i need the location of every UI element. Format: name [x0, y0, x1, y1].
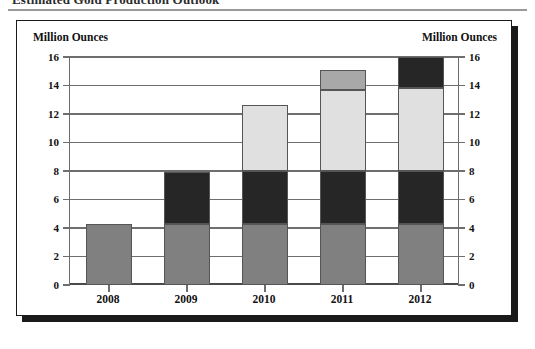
- y-axis-caption-right: Million Ounces: [422, 31, 497, 43]
- y-tick-label-left: 16: [48, 52, 59, 63]
- bar-segment-2011-4[interactable]: [320, 70, 366, 90]
- y-axis-caption-left: Million Ounces: [33, 31, 108, 43]
- bar-2012[interactable]: [398, 57, 444, 285]
- x-axis-label-2009: 2009: [146, 293, 226, 305]
- y-tick-label-right: 6: [469, 194, 475, 205]
- x-tick-2012: [420, 285, 421, 292]
- y-tick-left: [63, 113, 70, 114]
- bar-segment-2011-3[interactable]: [320, 90, 366, 171]
- x-axis-label-2012: 2012: [380, 293, 460, 305]
- y-tick-label-right: 2: [469, 251, 475, 262]
- y-tick-right: [458, 227, 465, 228]
- page-title: Estimated Gold Production Outlook: [12, 0, 220, 8]
- x-axis-label-2011: 2011: [302, 293, 382, 305]
- bar-segment-2010-3[interactable]: [242, 105, 288, 171]
- bar-segment-2012-5[interactable]: [398, 57, 444, 88]
- y-tick-label-left: 0: [54, 280, 60, 291]
- x-axis-label-2008: 2008: [68, 293, 148, 305]
- y-tick-label-left: 10: [48, 137, 59, 148]
- y-tick-right: [458, 142, 465, 143]
- bar-2011[interactable]: [320, 57, 366, 285]
- y-tick-label-right: 0: [469, 280, 475, 291]
- bar-segment-2012-2[interactable]: [398, 171, 444, 224]
- y-tick-label-left: 14: [48, 80, 59, 91]
- x-tick-2011: [342, 285, 343, 292]
- y-tick-label-left: 6: [54, 194, 60, 205]
- bar-2010[interactable]: [242, 57, 288, 285]
- x-tick-2008: [108, 285, 109, 292]
- x-tick-2009: [186, 285, 187, 292]
- y-tick-left: [63, 199, 70, 200]
- bar-segment-2012-3[interactable]: [398, 88, 444, 171]
- y-tick-right: [458, 284, 465, 285]
- bar-2009[interactable]: [164, 57, 210, 285]
- y-tick-left: [63, 85, 70, 86]
- y-tick-label-left: 12: [48, 109, 59, 120]
- y-tick-right: [458, 56, 465, 57]
- y-tick-label-left: 4: [54, 223, 60, 234]
- y-tick-left: [63, 284, 70, 285]
- x-tick-2010: [264, 285, 265, 292]
- y-tick-label-right: 10: [469, 137, 480, 148]
- y-tick-label-right: 16: [469, 52, 480, 63]
- bar-segment-2010-1[interactable]: [242, 224, 288, 285]
- plot-area: 00224466881010121214141616: [69, 57, 459, 285]
- title-divider: [8, 9, 527, 11]
- y-tick-label-left: 8: [54, 166, 60, 177]
- y-tick-label-right: 4: [469, 223, 475, 234]
- bar-segment-2009-1[interactable]: [164, 224, 210, 285]
- bar-segment-2010-2[interactable]: [242, 171, 288, 224]
- y-tick-left: [63, 227, 70, 228]
- bar-segment-2008-1[interactable]: [86, 224, 132, 285]
- y-tick-left: [63, 142, 70, 143]
- y-tick-label-right: 8: [469, 166, 475, 177]
- y-tick-right: [458, 256, 465, 257]
- x-axis-label-2010: 2010: [224, 293, 304, 305]
- y-tick-left: [63, 256, 70, 257]
- y-tick-right: [458, 170, 465, 171]
- bar-segment-2011-1[interactable]: [320, 224, 366, 285]
- y-tick-right: [458, 199, 465, 200]
- bar-segment-2011-2[interactable]: [320, 171, 366, 224]
- y-tick-label-right: 14: [469, 80, 480, 91]
- y-tick-right: [458, 113, 465, 114]
- y-tick-label-right: 12: [469, 109, 480, 120]
- y-tick-right: [458, 85, 465, 86]
- y-tick-label-left: 2: [54, 251, 60, 262]
- bar-segment-2012-1[interactable]: [398, 224, 444, 285]
- bar-segment-2009-2[interactable]: [164, 172, 210, 223]
- y-tick-left: [63, 170, 70, 171]
- y-tick-left: [63, 56, 70, 57]
- chart-container: Million Ounces Million Ounces 0022446688…: [16, 20, 512, 316]
- bar-2008[interactable]: [86, 57, 132, 285]
